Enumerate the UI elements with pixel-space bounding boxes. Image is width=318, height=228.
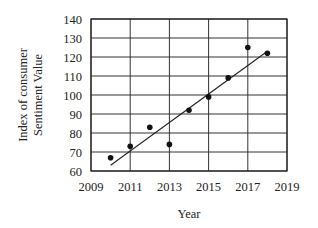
scatter-chart: 60708090100110120130140 2009201120132015… [0,0,318,228]
y-axis-label-line: Index of consumer [16,47,30,142]
data-point [265,50,271,56]
x-tick-label: 2019 [275,180,300,194]
y-axis-label-line: Sentiment Value [31,54,45,137]
data-point [127,144,133,150]
y-axis-label: Index of consumerSentiment Value [16,47,45,142]
y-tick-label: 90 [70,108,83,122]
data-point [147,125,153,131]
grid [91,19,287,171]
y-tick-label: 140 [63,13,82,27]
x-tick-label: 2011 [118,180,143,194]
data-point [108,155,114,161]
x-axis-ticks: 200920112013201520172019 [79,180,300,194]
data-point [206,94,212,100]
x-tick-label: 2017 [235,180,260,194]
y-tick-label: 100 [63,89,82,103]
data-points [108,45,270,161]
x-tick-label: 2013 [157,180,182,194]
y-tick-label: 130 [63,32,82,46]
data-point [245,45,251,51]
data-point [225,75,231,81]
y-tick-label: 110 [64,70,82,84]
y-axis-ticks: 60708090100110120130140 [63,13,82,179]
x-tick-label: 2009 [79,180,104,194]
x-tick-label: 2015 [196,180,221,194]
data-point [186,107,192,113]
y-tick-label: 120 [63,51,82,65]
y-tick-label: 60 [70,165,83,179]
y-tick-label: 80 [70,127,83,141]
data-point [167,142,173,148]
y-tick-label: 70 [70,146,83,160]
x-axis-label: Year [177,207,201,221]
